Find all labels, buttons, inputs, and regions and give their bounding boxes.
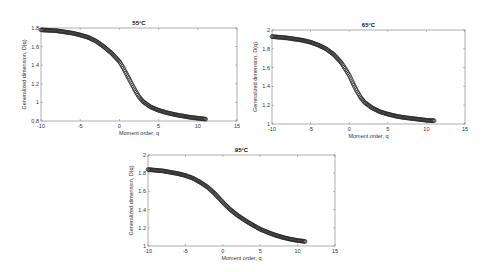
x-tick-label: -5 bbox=[183, 248, 188, 254]
x-axis-label: Moment order, q bbox=[221, 255, 261, 261]
x-tick-label: 5 bbox=[157, 123, 160, 129]
y-tick-label: 1.2 bbox=[31, 81, 39, 87]
x-tick-label: 10 bbox=[423, 126, 429, 132]
x-tick-label: 15 bbox=[234, 123, 240, 129]
x-tick-label: -5 bbox=[78, 123, 83, 129]
axes-frame bbox=[148, 155, 335, 246]
y-axis-label: Generalized dimension, D(q) bbox=[128, 165, 134, 235]
y-tick-label: 1.8 bbox=[138, 170, 146, 176]
x-tick-label: 5 bbox=[259, 248, 262, 254]
y-tick-label: 1.8 bbox=[31, 25, 39, 31]
x-tick-label: 10 bbox=[195, 123, 201, 129]
x-tick-label: 15 bbox=[462, 126, 468, 132]
y-tick-label: 1 bbox=[36, 99, 39, 105]
figure-canvas: -10-50510150.811.21.41.61.855°CMoment or… bbox=[0, 0, 484, 272]
chart-title: 95°C bbox=[235, 147, 249, 153]
x-tick-label: 0 bbox=[221, 248, 224, 254]
y-tick-label: 1.6 bbox=[262, 65, 270, 71]
y-tick-label: 1.4 bbox=[31, 62, 39, 68]
y-tick-label: 1.8 bbox=[262, 46, 270, 52]
axes-frame bbox=[272, 30, 465, 124]
y-axis-label: Generalized dimension, D(q) bbox=[21, 39, 27, 109]
chart-55c: -10-50510150.811.21.41.61.855°CMoment or… bbox=[21, 20, 240, 136]
chart-65c: -10-505101511.21.41.61.8265°CMoment orde… bbox=[252, 22, 468, 139]
y-tick-label: 1.6 bbox=[138, 188, 146, 194]
chart-title: 65°C bbox=[362, 22, 376, 28]
x-axis-label: Moment order, q bbox=[348, 133, 388, 139]
y-tick-label: 1.2 bbox=[262, 102, 270, 108]
y-tick-label: 2 bbox=[143, 152, 146, 158]
y-tick-label: 1.4 bbox=[262, 83, 270, 89]
y-tick-label: 1.4 bbox=[138, 207, 146, 213]
y-tick-label: 1 bbox=[143, 243, 146, 249]
x-axis-label: Moment order, q bbox=[119, 130, 159, 136]
y-axis-label: Generalized dimension, D(q) bbox=[252, 42, 258, 112]
x-tick-label: 0 bbox=[348, 126, 351, 132]
y-tick-label: 2 bbox=[267, 27, 270, 33]
y-tick-label: 1.2 bbox=[138, 225, 146, 231]
x-tick-label: 5 bbox=[386, 126, 389, 132]
y-tick-label: 0.8 bbox=[31, 118, 39, 124]
x-tick-label: 0 bbox=[118, 123, 121, 129]
x-tick-label: -5 bbox=[308, 126, 313, 132]
y-tick-label: 1 bbox=[267, 121, 270, 127]
x-tick-label: 15 bbox=[332, 248, 338, 254]
y-tick-label: 1.6 bbox=[31, 44, 39, 50]
x-tick-label: 10 bbox=[295, 248, 301, 254]
chart-title: 55°C bbox=[132, 20, 146, 26]
chart-95c: -10-505101511.21.41.61.8295°CMoment orde… bbox=[128, 147, 338, 261]
axes-frame bbox=[41, 28, 237, 121]
